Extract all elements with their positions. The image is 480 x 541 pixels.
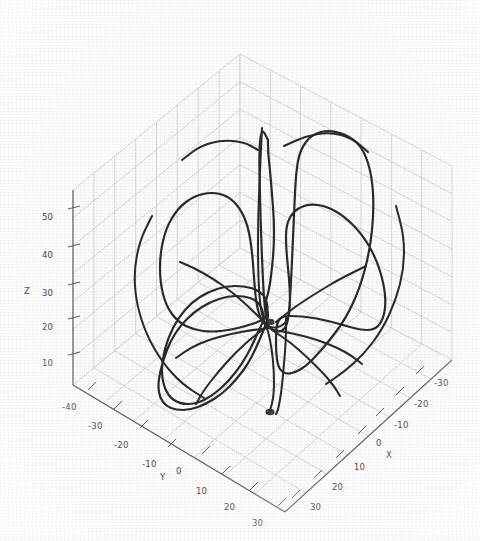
- x-tick-label-0: -30: [434, 378, 448, 388]
- x-tick-label-2: -10: [394, 420, 408, 430]
- y-axis-label: Y: [160, 472, 165, 482]
- z-tick-label-1: 40: [42, 250, 53, 260]
- plot-3d-axes: [0, 0, 480, 541]
- x-tick-label-3: 0: [376, 438, 382, 448]
- x-tick-label-6: 30: [310, 502, 321, 512]
- x-tick-label-4: 10: [354, 462, 365, 472]
- z-tick-label-3: 20: [42, 322, 53, 332]
- y-tick-label-1: -30: [88, 421, 102, 431]
- z-tick-label-0: 50: [42, 212, 53, 222]
- z-tick-label-4: 10: [42, 358, 53, 368]
- y-tick-label-6: 20: [224, 502, 235, 512]
- y-tick-label-5: 10: [196, 486, 207, 496]
- figure-canvas: 5040302010-40-30-20-100102030-30-20-1001…: [0, 0, 480, 541]
- y-tick-label-0: -40: [62, 402, 76, 412]
- y-tick-label-4: 0: [176, 466, 182, 476]
- y-tick-label-3: -10: [142, 459, 156, 469]
- x-axis-label: X: [386, 450, 392, 460]
- x-tick-label-1: -20: [414, 399, 428, 409]
- z-tick-label-2: 30: [42, 288, 53, 298]
- z-axis-label: Z: [24, 286, 30, 296]
- y-tick-label-2: -20: [114, 440, 128, 450]
- x-tick-label-5: 20: [332, 482, 343, 492]
- y-tick-label-7: 30: [252, 518, 263, 528]
